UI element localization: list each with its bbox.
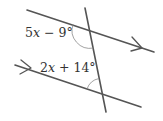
angle-label-bottom: 2x + 14° <box>40 62 96 75</box>
angle-label-top: 5x − 9° <box>25 27 73 40</box>
coefficient: 2 <box>40 60 48 75</box>
variable: x <box>48 60 55 75</box>
coefficient: 5 <box>25 25 33 40</box>
angle-arc-bottom <box>87 79 99 90</box>
parallel-arrow-icon-top <box>131 37 142 51</box>
operator: + <box>55 60 73 75</box>
operator: − <box>40 25 58 40</box>
variable: x <box>33 25 40 40</box>
constant: 14° <box>73 60 95 75</box>
constant: 9° <box>58 25 72 40</box>
